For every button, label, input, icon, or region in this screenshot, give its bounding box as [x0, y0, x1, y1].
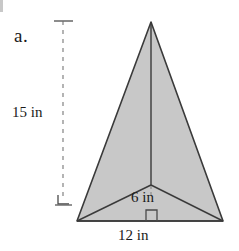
base-label: 12 in [118, 228, 148, 243]
item-label: a. [14, 26, 28, 45]
right-angle-marker-height [58, 195, 69, 204]
height-label: 15 in [12, 105, 42, 120]
figure-canvas [0, 0, 239, 251]
slant-height-label: 6 in [131, 190, 154, 205]
geometry-figure: a. 15 in 6 in 12 in [0, 0, 239, 251]
